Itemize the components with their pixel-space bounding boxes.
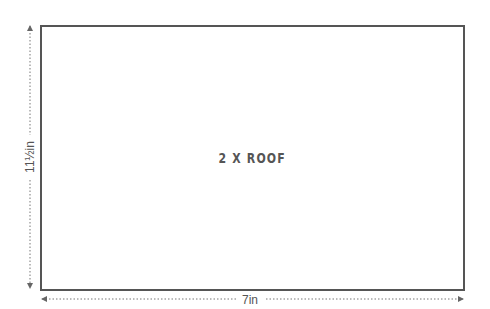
diagram-canvas: 2 X ROOF 11½in 7in — [0, 0, 490, 309]
panel-label: 2 X ROOF — [40, 25, 465, 291]
width-dimension-label: 7in — [236, 293, 264, 307]
height-dimension-label: 11½in — [23, 135, 37, 179]
panel-label-text: 2 X ROOF — [219, 150, 286, 166]
